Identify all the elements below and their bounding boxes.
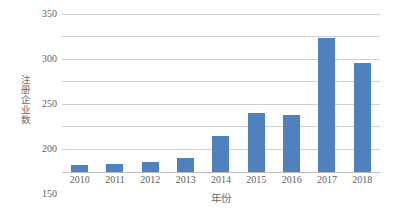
bar[interactable] [354,63,371,172]
bar-slot [274,14,309,172]
y-axis-tick-label: 200 [42,144,57,154]
bar[interactable] [106,164,123,172]
bar[interactable] [212,136,229,172]
y-axis-tick-label: 350 [42,9,57,19]
bar-chart: 注册企业数 050100150200250300350 201020112012… [0,0,396,222]
y-axis-tick-label: 250 [42,99,57,109]
plot-area: 050100150200250300350 [62,14,380,172]
x-axis-tick-labels: 201020112012201320142015201620172018 [62,175,380,185]
x-axis-tick-label: 2016 [274,175,309,185]
x-axis-tick-label: 2010 [62,175,97,185]
bar-slot [345,14,380,172]
y-axis-tick-label: 300 [42,54,57,64]
x-axis-tick-label: 2018 [345,175,380,185]
bar[interactable] [248,113,265,172]
x-axis-title: 年份 [62,193,380,204]
bar-slot [239,14,274,172]
y-axis-title: 注册企业数 [18,52,32,148]
bar[interactable] [71,165,88,172]
bar[interactable] [177,158,194,172]
bar-slot [168,14,203,172]
bar-slot [97,14,132,172]
x-axis-tick-label: 2012 [133,175,168,185]
bar-slot [309,14,344,172]
bar[interactable] [283,115,300,172]
x-axis-tick-label: 2013 [168,175,203,185]
bar-slot [203,14,238,172]
y-axis-tick-label: 150 [42,189,57,199]
x-axis-tick-label: 2017 [309,175,344,185]
bar[interactable] [318,38,335,172]
x-axis-tick-label: 2014 [203,175,238,185]
bars-layer [62,14,380,172]
x-axis-tick-label: 2015 [239,175,274,185]
bar-slot [133,14,168,172]
x-axis-tick-label: 2011 [97,175,132,185]
bar[interactable] [142,162,159,172]
bar-slot [62,14,97,172]
